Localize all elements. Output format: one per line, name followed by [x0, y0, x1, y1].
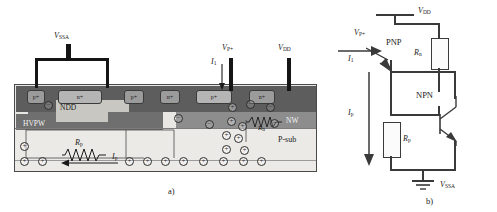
carrier-hole: +: [143, 157, 152, 166]
figure-root: p+ n+ p+ n+ p+ n+ NDD HVPW NW P-sub VSSA…: [0, 0, 497, 212]
carrier-electron: −: [246, 100, 255, 109]
ground-label-vssa: VSSA: [440, 180, 455, 189]
resistor-label-rp: Rp: [403, 134, 411, 143]
pnp-emitter-down-wire: [390, 81, 392, 115]
diffusion-n-plus-1: n+: [58, 90, 102, 104]
panel-cross-section: p+ n+ p+ n+ p+ n+ NDD HVPW NW P-sub VSSA…: [0, 0, 330, 212]
terminal-label-vp-plus: VP+: [222, 43, 233, 52]
npn-emitter-wire: [454, 140, 456, 170]
carrier-electron: −: [205, 120, 214, 129]
caption-a: a): [168, 186, 175, 196]
carrier-hole: +: [240, 146, 249, 155]
vssa-bracket: [35, 58, 109, 88]
region-label-ndd: NDD: [60, 103, 76, 112]
carrier-electron: −: [44, 101, 53, 110]
current-label-i1: I1: [348, 54, 353, 63]
carrier-electron: −: [266, 103, 275, 112]
carrier-hole: +: [20, 157, 29, 166]
vssa-terminal-stem[interactable]: [66, 44, 71, 60]
carrier-hole: +: [228, 103, 237, 112]
carrier-hole: +: [227, 117, 236, 126]
current-arrow-i1-xs: [218, 64, 230, 90]
carrier-hole: +: [222, 131, 231, 140]
carrier-electron: −: [174, 114, 183, 123]
carrier-hole: +: [238, 122, 247, 131]
ground-symbol-icon: [410, 180, 438, 194]
current-label-i1-xs: I1: [211, 57, 216, 66]
carrier-hole: +: [222, 145, 231, 154]
carrier-hole: +: [38, 157, 47, 166]
current-label-ip: Ip: [348, 108, 353, 117]
carrier-electron: −: [270, 119, 279, 128]
carrier-hole: +: [161, 157, 170, 166]
carrier-hole: +: [125, 157, 134, 166]
transistor-label-pnp: PNP: [386, 37, 402, 47]
resistor-label-rn: Rn: [414, 48, 422, 57]
vdd-rail-horizontal: [394, 23, 440, 25]
resistor-rn: [431, 38, 449, 70]
input-label-vp-plus: VP+: [354, 28, 365, 37]
supply-label-vdd: VDD: [418, 6, 431, 15]
current-arrow-i1: [338, 43, 386, 59]
vdd-terminal-stem[interactable]: [287, 58, 291, 91]
terminal-label-vssa: VSSA: [54, 31, 69, 40]
npn-collector-tie: [438, 71, 456, 73]
current-arrow-ip: [362, 72, 376, 168]
carrier-hole: +: [219, 157, 228, 166]
npn-collector-wire: [454, 71, 456, 99]
caption-b: b): [426, 196, 433, 206]
resistor-rp: [383, 122, 401, 158]
carrier-hole: +: [239, 157, 248, 166]
rp-lower-wire: [390, 156, 392, 170]
diffusion-p-plus-2: p+: [124, 90, 144, 104]
panel-circuit: VDD Rn PNP VP+ I1: [330, 0, 497, 212]
vdd-to-rn-wire: [438, 23, 440, 38]
diffusion-p-plus-3: p+: [196, 90, 232, 104]
carrier-hole: +: [199, 157, 208, 166]
transistor-label-npn: NPN: [416, 90, 433, 100]
carrier-hole: +: [257, 157, 266, 166]
resistor-label-rn-xs: Rn: [258, 124, 265, 132]
terminal-label-vdd-xs: VDD: [278, 43, 291, 52]
resistor-label-rp-xs: Rp: [75, 138, 83, 147]
carrier-hole: +: [20, 142, 29, 151]
diffusion-n-plus-2: n+: [160, 90, 180, 104]
panel-divider: [327, 4, 328, 208]
diffusion-p-plus-1: p+: [27, 90, 45, 104]
npn-transistor-symbol: [426, 96, 468, 146]
carrier-hole: +: [234, 134, 243, 143]
carrier-hole: +: [179, 157, 188, 166]
current-label-ip-xs: Ip: [112, 152, 117, 161]
